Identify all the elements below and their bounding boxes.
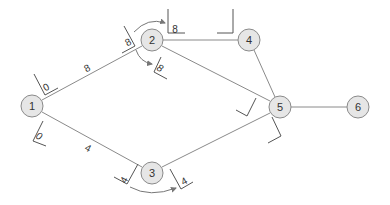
edge-weight-1-3: 4	[83, 142, 93, 155]
time-box-2-to-4: 8	[168, 9, 185, 35]
svg-text:2: 2	[149, 34, 155, 46]
svg-text:4: 4	[118, 175, 131, 185]
edge-weight-1-2: 8	[82, 62, 92, 75]
node-6: 6	[347, 96, 369, 118]
node-4: 4	[238, 29, 260, 51]
time-box-3-outgoing: 4	[170, 169, 193, 189]
node-1: 1	[21, 95, 43, 117]
svg-text:5: 5	[277, 101, 283, 113]
time-box-2-incoming: 8	[122, 26, 135, 53]
svg-text:8: 8	[155, 62, 165, 75]
time-box-1-upper: 0	[34, 74, 58, 95]
svg-text:3: 3	[149, 167, 155, 179]
edge-1-3	[42, 112, 142, 167]
node-2: 2	[141, 29, 163, 51]
network-diagram: 8 4 0 0 8 8 8	[0, 0, 390, 205]
time-box-1-lower: 0	[33, 121, 46, 146]
time-box-2-to-5: 8	[154, 57, 167, 79]
edge-4-5	[254, 50, 275, 97]
edge-2-5	[162, 46, 270, 101]
time-box-4-incoming	[217, 9, 233, 33]
time-box-5-from-2	[236, 98, 256, 116]
svg-text:8: 8	[172, 24, 178, 35]
arrow-2-bottom	[136, 50, 152, 64]
svg-text:8: 8	[123, 36, 133, 49]
diagram-canvas: 8 4 0 0 8 8 8	[0, 0, 390, 205]
time-box-3-incoming: 4	[114, 164, 138, 185]
edge-3-5	[162, 113, 270, 167]
node-5: 5	[269, 96, 291, 118]
edge-1-2	[42, 46, 142, 100]
svg-text:4: 4	[246, 34, 252, 46]
arrow-3-bottom	[130, 187, 176, 193]
time-box-5-from-3	[268, 117, 281, 143]
node-3: 3	[141, 162, 163, 184]
svg-text:0: 0	[34, 130, 44, 143]
svg-text:6: 6	[355, 101, 361, 113]
svg-text:1: 1	[29, 100, 35, 112]
